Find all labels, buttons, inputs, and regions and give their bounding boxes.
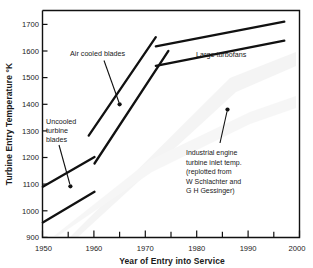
x-axis-title: Year of Entry into Service <box>119 256 225 266</box>
y-axis-title: Turbine Entry Temperature °K <box>4 62 14 185</box>
chart-figure: 1700 1600 1500 1400 1300 1200 1100 1000 … <box>0 0 313 268</box>
chart-canvas: 1700 1600 1500 1400 1300 1200 1100 1000 … <box>0 0 313 268</box>
y-tick-label-1600: 1600 <box>22 47 39 56</box>
annotation-large-turbofans: Large turbofans <box>196 50 247 59</box>
y-tick-label-1500: 1500 <box>22 73 39 82</box>
industrial-engine-marker <box>225 108 229 112</box>
annotation-industrial-line-2: turbine inlet temp. <box>186 159 242 167</box>
air-cooled-blades-marker <box>118 102 122 106</box>
y-tick-label-1200: 1200 <box>22 153 39 162</box>
y-tick-label-1000: 1000 <box>22 207 39 216</box>
y-tick-labels: 1700 1600 1500 1400 1300 1200 1100 1000 … <box>22 20 39 242</box>
x-tick-label-2000: 2000 <box>289 244 306 253</box>
annotation-air-cooled-blades: Air cooled blades <box>70 49 126 58</box>
annotation-uncooled-line-3: blades <box>46 135 68 144</box>
annotation-uncooled-line-2: turbine <box>46 126 68 135</box>
uncooled-turbine-blades-marker <box>68 184 72 188</box>
y-tick-label-1700: 1700 <box>22 20 39 29</box>
annotation-uncooled-line-1: Uncooled <box>46 117 76 126</box>
x-tick-label-1990: 1990 <box>240 244 257 253</box>
annotation-industrial-line-4: W Schlachter and <box>186 178 241 185</box>
x-tick-label-1950: 1950 <box>35 244 52 253</box>
y-tick-label-1300: 1300 <box>22 127 39 136</box>
y-tick-label-1100: 1100 <box>23 180 39 189</box>
y-tick-label-900: 900 <box>26 233 39 242</box>
y-tick-label-1400: 1400 <box>22 100 39 109</box>
annotation-industrial-line-5: G H Gessinger) <box>186 187 235 195</box>
x-tick-label-1970: 1970 <box>137 244 154 253</box>
annotation-industrial-line-1: Industrial engine <box>186 149 237 157</box>
annotation-industrial-line-3: (replotted from <box>186 168 232 176</box>
x-tick-label-1980: 1980 <box>188 244 205 253</box>
x-tick-label-1960: 1960 <box>85 244 102 253</box>
